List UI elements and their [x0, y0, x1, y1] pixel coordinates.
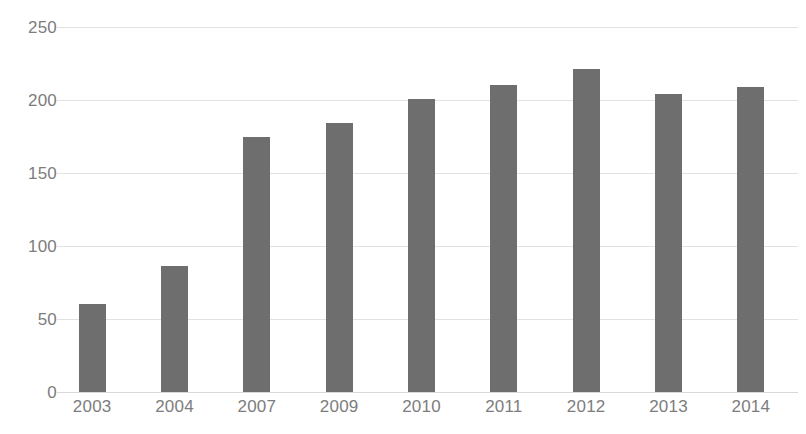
bar-2010: [408, 99, 435, 392]
x-tick-label: 2004: [155, 398, 194, 415]
bar-2014: [737, 87, 764, 392]
y-tick-label: 200: [9, 92, 57, 109]
x-tick-label: 2007: [238, 398, 277, 415]
y-tick-label: 150: [9, 165, 57, 182]
bar-2011: [490, 85, 517, 392]
x-tick-label: 2011: [485, 398, 522, 415]
y-axis: 050100150200250: [0, 0, 57, 434]
bar-chart: 050100150200250 200320042007200920102011…: [0, 0, 806, 434]
x-tick-label: 2010: [402, 398, 441, 415]
x-tick-label: 2013: [649, 398, 688, 415]
y-tick-label: 0: [9, 384, 57, 401]
bar-2012: [573, 69, 600, 392]
bars-layer: [57, 27, 798, 392]
y-tick-label: 250: [9, 19, 57, 36]
x-tick-label: 2014: [732, 398, 771, 415]
bar-2013: [655, 94, 682, 392]
bar-2004: [161, 266, 188, 392]
bar-2007: [243, 137, 270, 393]
bar-2003: [79, 304, 106, 392]
x-tick-label: 2009: [320, 398, 359, 415]
x-tick-label: 2003: [73, 398, 112, 415]
y-tick-label: 50: [9, 311, 57, 328]
y-tick-label: 100: [9, 238, 57, 255]
bar-2009: [326, 123, 353, 392]
x-tick-label: 2012: [567, 398, 606, 415]
gridline-0: [57, 392, 798, 393]
